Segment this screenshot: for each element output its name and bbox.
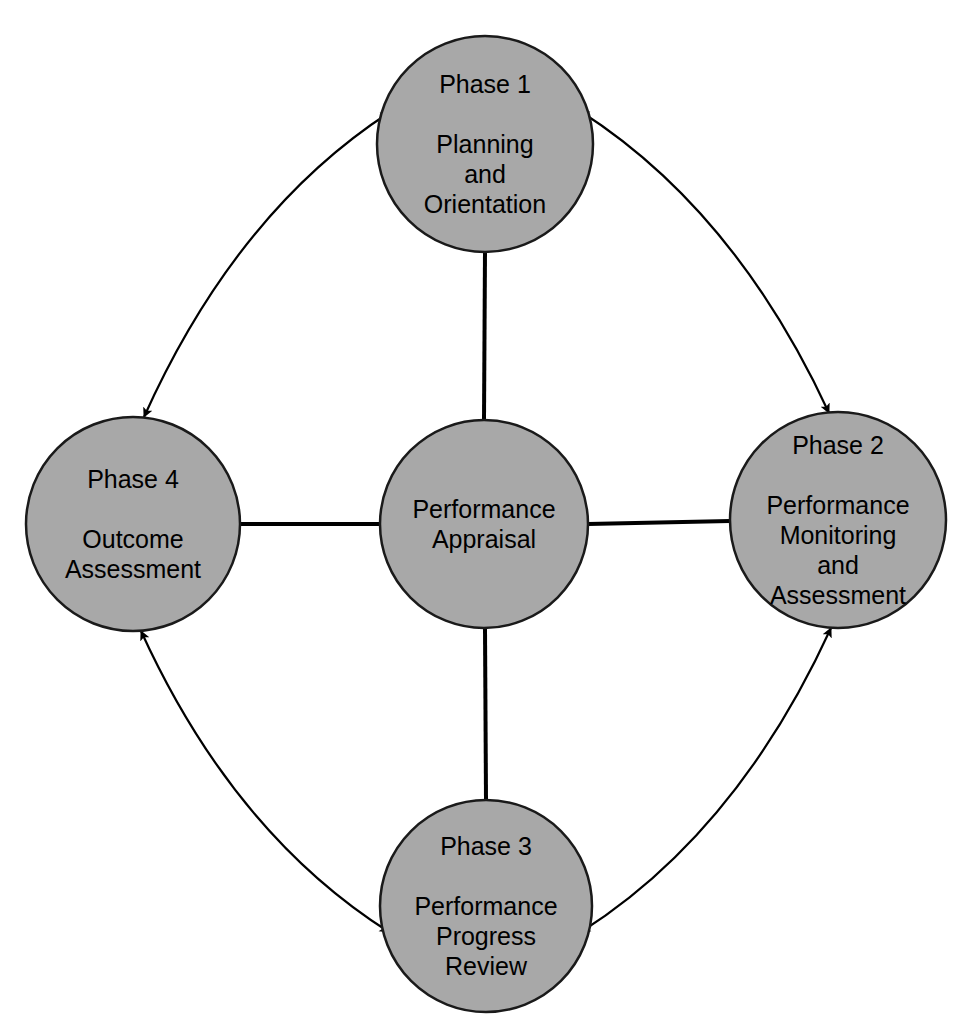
node-circle-phase-3[interactable] <box>380 800 592 1012</box>
node-circle-phase-2[interactable] <box>730 412 946 628</box>
spoke-center-to-phase-2 <box>588 521 730 524</box>
node-circle-phase-4[interactable] <box>26 417 240 631</box>
spoke-center-to-phase-3 <box>485 628 486 800</box>
performance-appraisal-cycle-diagram: Phase 1 Planning and Orientation Phase 2… <box>0 0 961 1032</box>
diagram-canvas <box>0 0 961 1032</box>
arc-phase-2-phase-3 <box>581 628 831 932</box>
node-circle-phase-1[interactable] <box>377 36 593 252</box>
node-circle-performance-appraisal[interactable] <box>380 420 588 628</box>
arc-phase-3-phase-4 <box>141 631 389 932</box>
arc-phase-1-phase-2 <box>580 111 829 413</box>
arc-phase-4-phase-1 <box>144 112 390 417</box>
spoke-center-to-phase-1 <box>484 252 485 420</box>
node-circle-group <box>26 36 946 1012</box>
